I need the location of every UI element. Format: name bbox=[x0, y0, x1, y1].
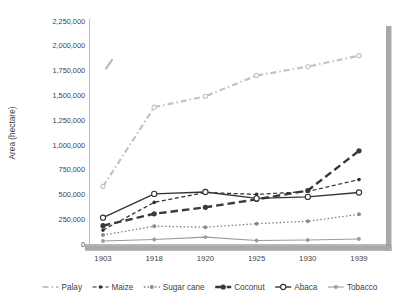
data-point-marker bbox=[306, 238, 310, 242]
data-point-marker bbox=[152, 105, 156, 109]
data-point-marker bbox=[101, 233, 105, 237]
series-tobacco bbox=[101, 235, 361, 243]
legend-label: Tobacco bbox=[347, 283, 378, 292]
x-tick-label: 1925 bbox=[248, 254, 266, 263]
data-point-marker bbox=[152, 224, 156, 228]
data-point-marker bbox=[203, 225, 207, 229]
series-line-tobacco bbox=[103, 237, 359, 241]
chart-page: Area (hectare) 0250,000500,000750,0001,0… bbox=[0, 0, 404, 308]
legend-swatch-marker bbox=[99, 285, 103, 289]
data-point-marker bbox=[356, 190, 361, 195]
series-maize bbox=[101, 178, 361, 232]
series-palay bbox=[101, 54, 361, 189]
legend-item-coconut: Coconut bbox=[215, 283, 265, 292]
y-tick-label: 1,000,000 bbox=[53, 141, 85, 150]
data-point-marker bbox=[357, 212, 361, 216]
y-tick-label: 500,000 bbox=[59, 190, 85, 199]
data-point-marker bbox=[357, 54, 361, 58]
legend-swatch-marker bbox=[281, 284, 286, 289]
legend-label: Coconut bbox=[234, 283, 265, 292]
data-point-marker bbox=[306, 219, 310, 223]
x-tick-label: 1920 bbox=[197, 254, 215, 263]
legend-swatch-marker bbox=[150, 285, 154, 289]
data-point-marker bbox=[152, 201, 156, 205]
legend-item-sugar-cane: Sugar cane bbox=[144, 283, 205, 292]
data-point-marker bbox=[152, 191, 157, 196]
data-point-marker bbox=[255, 73, 259, 77]
smudge-artifact bbox=[106, 60, 112, 69]
y-axis-title: Area (hectare) bbox=[7, 106, 17, 159]
series-line-maize bbox=[103, 180, 359, 231]
legend-item-maize: Maize bbox=[93, 283, 134, 292]
y-tick-label: 0 bbox=[81, 240, 85, 249]
legend-item-tobacco: Tobacco bbox=[328, 283, 378, 292]
series-line-palay bbox=[103, 56, 359, 187]
data-point-marker bbox=[356, 148, 361, 153]
y-tick-label: 2,250,000 bbox=[53, 17, 85, 26]
data-point-marker bbox=[203, 205, 208, 210]
y-tick-label: 750,000 bbox=[59, 165, 85, 174]
data-point-marker bbox=[152, 211, 157, 216]
legend-label: Sugar cane bbox=[163, 283, 205, 292]
data-point-marker bbox=[357, 178, 361, 182]
plot-shadow-right bbox=[386, 26, 392, 251]
legend: PalayMaizeSugar caneCoconutAbacaTobacco bbox=[43, 283, 378, 292]
crop-area-line-chart: Area (hectare) 0250,000500,000750,0001,0… bbox=[0, 0, 404, 308]
y-tick-label: 1,500,000 bbox=[53, 91, 85, 100]
data-point-marker bbox=[101, 239, 105, 243]
legend-item-abaca: Abaca bbox=[275, 283, 318, 292]
data-point-marker bbox=[305, 188, 310, 193]
x-tick-label: 1903 bbox=[94, 254, 111, 263]
data-point-marker bbox=[203, 189, 208, 194]
data-point-marker bbox=[254, 196, 259, 201]
legend-swatch-marker bbox=[221, 284, 226, 289]
legend-label: Abaca bbox=[294, 283, 318, 292]
data-point-marker bbox=[101, 184, 105, 188]
legend-item-palay: Palay bbox=[43, 283, 83, 292]
data-point-marker bbox=[357, 237, 361, 241]
x-tick-label: 1918 bbox=[146, 254, 163, 263]
series-line-abaca bbox=[103, 192, 359, 218]
legend-label: Maize bbox=[112, 283, 134, 292]
y-tick-label: 250,000 bbox=[59, 215, 85, 224]
data-point-marker bbox=[204, 235, 208, 239]
x-tick-label: 1930 bbox=[299, 254, 317, 263]
y-tick-label: 1,750,000 bbox=[53, 66, 85, 75]
data-point-marker bbox=[100, 223, 105, 228]
data-point-marker bbox=[100, 215, 105, 220]
data-point-marker bbox=[203, 94, 207, 98]
legend-label: Palay bbox=[62, 283, 83, 292]
y-tick-label: 1,250,000 bbox=[53, 116, 85, 125]
y-tick-label: 2,000,000 bbox=[53, 41, 85, 50]
data-point-marker bbox=[306, 65, 310, 69]
plot-area: 0250,000500,000750,0001,000,0001,250,000… bbox=[53, 17, 392, 263]
data-point-marker bbox=[305, 194, 310, 199]
data-point-marker bbox=[255, 239, 259, 243]
data-point-marker bbox=[255, 222, 259, 226]
data-point-marker bbox=[101, 228, 105, 232]
plot-shadow-bottom bbox=[85, 245, 392, 251]
series-abaca bbox=[100, 189, 361, 220]
x-tick-label: 1939 bbox=[350, 254, 367, 263]
legend-swatch-marker bbox=[334, 285, 338, 289]
data-point-marker bbox=[152, 238, 156, 242]
